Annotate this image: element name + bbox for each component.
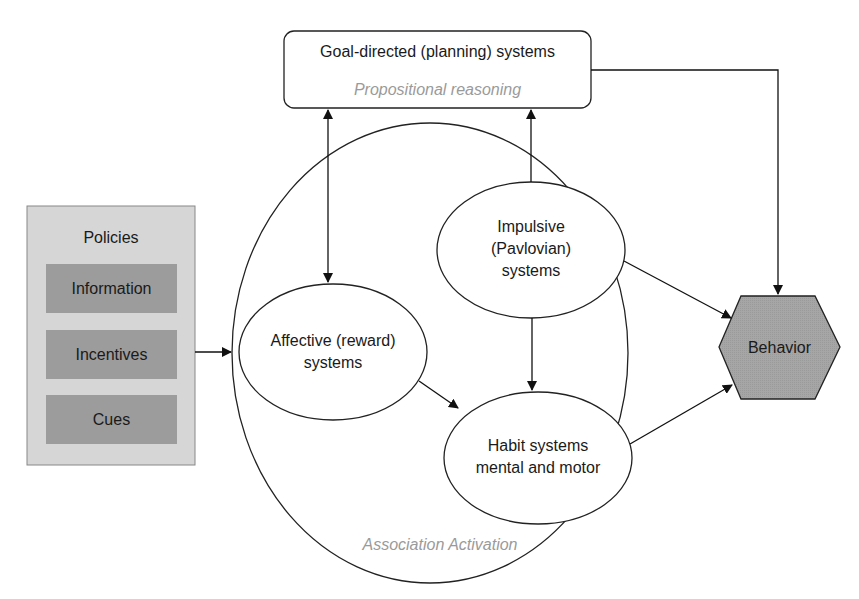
behavior-node-label: Behavior bbox=[719, 338, 840, 358]
edge-impulsive-to-behavior bbox=[624, 261, 731, 318]
policy-item-information: Information bbox=[46, 279, 177, 299]
impulsive-node-line2: (Pavlovian) bbox=[437, 239, 625, 259]
edge-habit-to-behavior bbox=[630, 385, 732, 444]
association-caption: Association Activation bbox=[330, 535, 550, 555]
policies-title: Policies bbox=[27, 228, 195, 248]
habit-node-line2: mental and motor bbox=[444, 458, 632, 478]
policy-item-cues: Cues bbox=[46, 410, 177, 430]
habit-node-line1: Habit systems bbox=[444, 436, 632, 456]
edge-affective-to-habit bbox=[419, 381, 458, 408]
goal-box-subtitle: Propositional reasoning bbox=[284, 80, 591, 100]
goal-box-title: Goal-directed (planning) systems bbox=[284, 42, 591, 62]
affective-node-line2: systems bbox=[239, 353, 427, 373]
impulsive-node-line1: Impulsive bbox=[437, 217, 625, 237]
affective-node-line1: Affective (reward) bbox=[239, 331, 427, 351]
policy-item-incentives: Incentives bbox=[46, 345, 177, 365]
impulsive-node-line3: systems bbox=[437, 261, 625, 281]
affective-node-shape bbox=[239, 284, 427, 420]
